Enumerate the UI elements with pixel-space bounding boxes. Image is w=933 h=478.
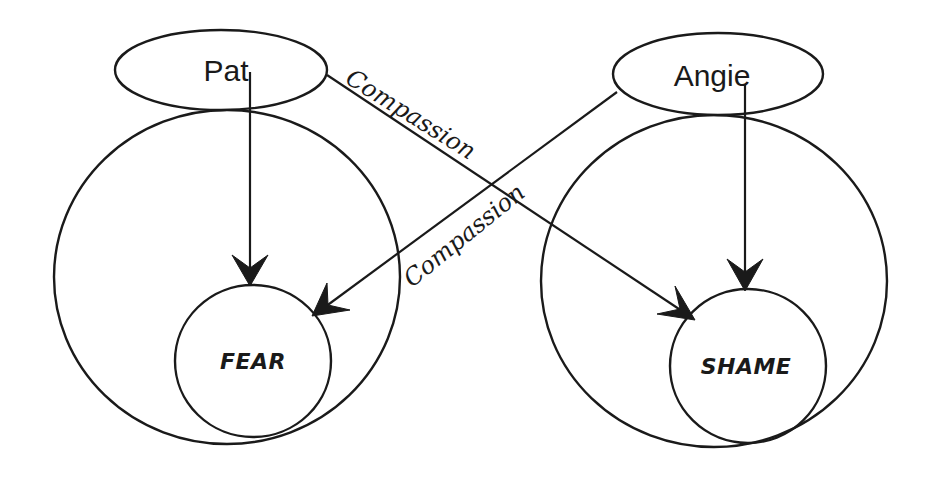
fear-node: FEAR: [175, 285, 331, 437]
arrowhead-icon: [657, 286, 695, 320]
shame-label: SHAME: [701, 354, 792, 379]
angie-to-fear-line: [325, 92, 617, 307]
pat-outer-circle: [54, 110, 400, 444]
fear-label: FEAR: [220, 349, 286, 374]
arrowhead-icon: [312, 283, 350, 316]
compassion-diagram: FEAR SHAME Pat Angie Compassion Compassi…: [0, 0, 933, 478]
pat-to-shame-compassion-label: Compassion: [341, 63, 481, 165]
angie-outer-circle: [541, 115, 887, 447]
angie-label: Angie: [674, 59, 751, 92]
shame-node: SHAME: [670, 289, 826, 443]
pat-node: Pat: [115, 30, 327, 110]
angie-to-fear-compassion-label: Compassion: [398, 178, 530, 293]
edge-angie-to-fear: Compassion: [312, 92, 617, 316]
pat-label: Pat: [203, 54, 249, 87]
angie-node: Angie: [613, 33, 823, 115]
